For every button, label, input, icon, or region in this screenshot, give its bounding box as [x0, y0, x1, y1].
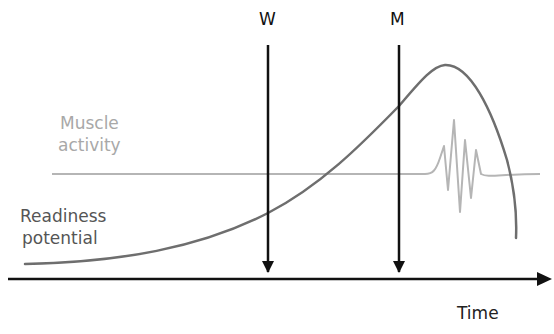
muscle-activity-label-line1: Muscle [58, 112, 121, 134]
marker-label-w: W [259, 11, 276, 28]
readiness-potential-label-line1: Readiness [20, 205, 106, 227]
marker-label-m: M [390, 11, 405, 28]
time-axis-label: Time [457, 305, 499, 322]
m-arrowhead-icon [393, 261, 405, 273]
readiness-potential-label-line2: potential [20, 227, 106, 249]
readiness-potential-label: Readiness potential [20, 205, 106, 249]
diagram-canvas [0, 0, 554, 334]
w-arrowhead-icon [262, 261, 274, 273]
time-axis-arrowhead-icon [537, 272, 552, 286]
muscle-activity-label-line2: activity [58, 134, 121, 156]
muscle-activity-trace [52, 120, 540, 212]
muscle-activity-label: Muscle activity [58, 112, 121, 156]
